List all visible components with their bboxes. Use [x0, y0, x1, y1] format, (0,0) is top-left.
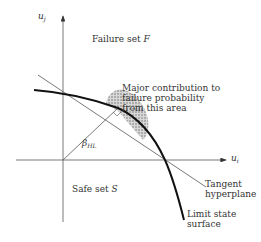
vertical-axis-label: uj — [38, 11, 46, 24]
beta-hl-line — [63, 108, 118, 160]
limit-state-surface-label: Limit state surface — [187, 209, 236, 229]
horizontal-axis-label: ui — [231, 153, 239, 166]
tangent-hyperplane-label: Tangent hyperplane — [205, 179, 256, 199]
beta-hl-label: βHL — [82, 138, 96, 151]
safe-set-label: Safe set S — [72, 184, 118, 194]
failure-set-label: Failure set F — [92, 34, 150, 44]
major-contribution-label: Major contribution to failure probabilit… — [122, 83, 220, 113]
